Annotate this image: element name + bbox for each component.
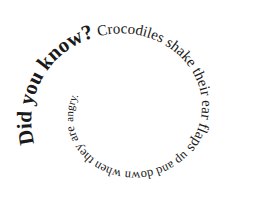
spiral-text-path: Did you know? Crocodiles shake their ear…	[12, 19, 215, 182]
spiral-svg: Did you know? Crocodiles shake their ear…	[0, 0, 255, 219]
fact-text-inner: angry.	[63, 91, 80, 122]
spiral-text-graphic: Did you know? Crocodiles shake their ear…	[0, 0, 255, 219]
fact-text-middle: up and down when they are	[63, 125, 191, 183]
spiral-text: Did you know? Crocodiles shake their ear…	[12, 19, 215, 182]
fact-text-outer: Crocodiles shake their ear flaps	[96, 20, 215, 156]
headline-text: Did you know?	[12, 19, 96, 147]
